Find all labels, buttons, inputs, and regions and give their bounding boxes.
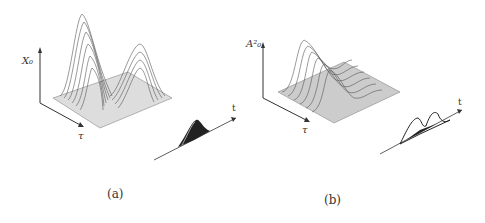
inset-axis-label: t bbox=[232, 103, 236, 113]
caption-b: (b) bbox=[324, 193, 341, 207]
panel-a: X₀ τ t (a) bbox=[0, 0, 240, 223]
inset-profile-b bbox=[240, 0, 485, 223]
panel-b: A²₀ τ t (b) bbox=[240, 0, 485, 223]
inset-axis-label: t bbox=[458, 97, 462, 107]
caption-a: (a) bbox=[107, 187, 124, 201]
